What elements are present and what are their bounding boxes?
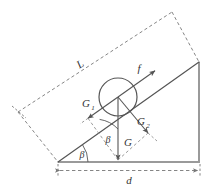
slope-dimension-left-cap xyxy=(18,112,58,162)
label-weight: G xyxy=(124,136,132,148)
label-slope-component: G 1 xyxy=(82,97,95,112)
figure-canvas: L f G 1 G 2 G β β d xyxy=(0,0,217,192)
label-friction-force: f xyxy=(137,62,142,74)
slope-component-guide xyxy=(80,118,88,124)
normal-component-guide xyxy=(148,133,157,141)
label-base-length: d xyxy=(126,174,132,186)
label-slope-length: L xyxy=(73,57,86,71)
inclined-plane-figure: L f G 1 G 2 G β β d xyxy=(0,0,217,192)
label-base-angle: β xyxy=(79,149,85,160)
slope-dimension-right-cap xyxy=(172,12,199,62)
label-normal-component-subscript: 2 xyxy=(146,122,150,130)
label-decomposition-angle: β xyxy=(105,134,111,145)
label-normal-component-base: G xyxy=(137,115,145,127)
parallelogram-side-right xyxy=(118,133,148,160)
label-slope-component-base: G xyxy=(82,97,90,109)
label-slope-component-subscript: 1 xyxy=(91,104,95,112)
